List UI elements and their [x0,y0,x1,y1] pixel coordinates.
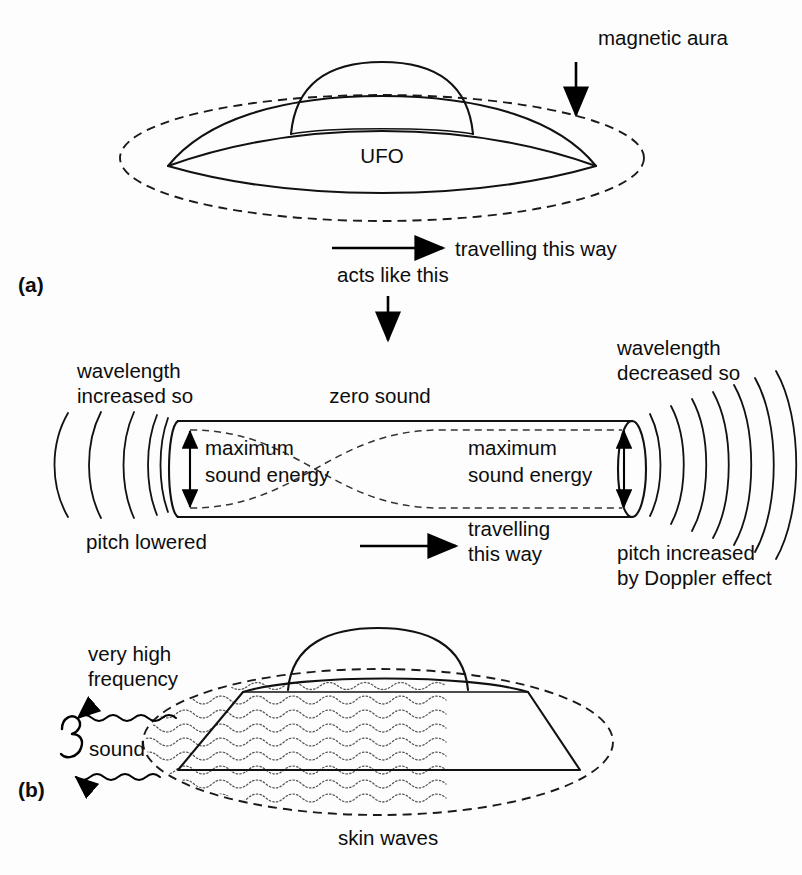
skin-wave-line [140,696,446,704]
acts-like-this-label: acts like this [337,263,449,286]
right-wave-arc [734,385,751,545]
right-wave-arc [692,399,706,531]
magnetic-aura-label: magnetic aura [598,26,729,49]
max-sound-energy-right-line2: sound energy [468,463,593,486]
very-high-label: very high [88,642,171,665]
sound-label: sound [89,737,145,760]
skin-wave-line [140,724,446,732]
cylinder-left-cap [169,421,178,517]
left-wave-arc [124,412,135,518]
skin-wave-line [140,738,446,746]
panel-cylinder-group: wavelength increased so zero sound wavel… [55,336,797,589]
ufo-label: UFO [360,144,403,167]
left-wave-arc [161,418,169,512]
frequency-label: frequency [88,667,179,690]
ufo-doppler-figure: magnetic aura UFO travelling this way ac… [0,0,802,875]
right-wave-arcs [650,371,796,559]
max-sound-energy-right-line1: maximum [468,436,557,459]
right-wave-arc [755,378,774,552]
max-sound-energy-left-line1: maximum [205,436,294,459]
travelling-this-way-label-a: travelling this way [455,237,618,260]
wavelength-increased-line2: increased so [77,384,193,407]
pitch-increased-line2: by Doppler effect [617,566,772,589]
cylinder-right-cap [618,421,646,517]
sound-wavy-arrow-upper [78,715,176,721]
panel-a-group: magnetic aura UFO travelling this way ac… [18,26,729,340]
ear-icon [61,716,82,757]
zero-sound-label: zero sound [329,384,430,407]
right-wave-arc [776,371,796,559]
skin-wave-line [140,794,446,802]
skin-waves-label: skin waves [338,826,438,849]
panel-b-label: (b) [18,778,45,801]
skin-wave-line [140,752,446,760]
pitch-lowered-label: pitch lowered [86,530,207,553]
max-sound-energy-left-line2: sound energy [205,463,330,486]
wavelength-decreased-line1: wavelength [616,336,721,359]
left-wave-arc [89,412,101,518]
sound-wavy-arrow-lower [76,774,160,780]
pitch-increased-line1: pitch increased [617,541,755,564]
wavelength-increased-line1: wavelength [76,359,181,382]
ufo-dome [291,62,473,134]
right-wave-arc [650,414,661,516]
skin-wave-line [140,710,446,718]
travelling-label-cyl-line2: this way [468,542,543,565]
left-wave-arcs [55,412,169,518]
left-wave-arc [55,413,69,517]
aura-ellipse-b [143,669,613,815]
panel-a-label: (a) [18,273,44,296]
travelling-label-cyl-line1: travelling [468,517,550,540]
right-wave-arc [671,406,684,524]
panel-b-group: very high frequency sound skin waves (b) [18,628,613,849]
left-wave-arc [148,415,157,515]
wavelength-decreased-line2: decreased so [617,361,740,384]
right-wave-arc [713,392,729,538]
figure-canvas: magnetic aura UFO travelling this way ac… [0,0,802,875]
